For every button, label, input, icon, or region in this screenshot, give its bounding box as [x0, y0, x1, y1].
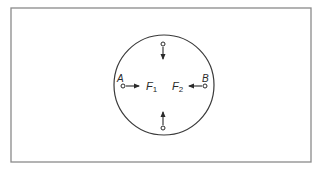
point-b-label: B: [202, 73, 209, 84]
bottom-point-group: [161, 112, 165, 130]
force-f2-label: F2: [172, 80, 184, 94]
point-b-group: B: [189, 73, 209, 88]
bottom-point-icon: [161, 126, 165, 130]
point-a-group: A: [116, 73, 139, 88]
point-a-label: A: [116, 73, 124, 84]
top-point-icon: [161, 42, 165, 46]
frame-border: [11, 8, 311, 162]
force-f1-subscript: 1: [153, 85, 158, 94]
force-diagram: A B F1 F2: [0, 0, 324, 169]
top-point-group: [161, 42, 165, 59]
circle-boundary: [114, 35, 214, 135]
force-f1-label: F1: [146, 80, 158, 94]
point-b-icon: [203, 84, 207, 88]
point-a-icon: [121, 84, 125, 88]
force-f2-subscript: 2: [179, 85, 184, 94]
